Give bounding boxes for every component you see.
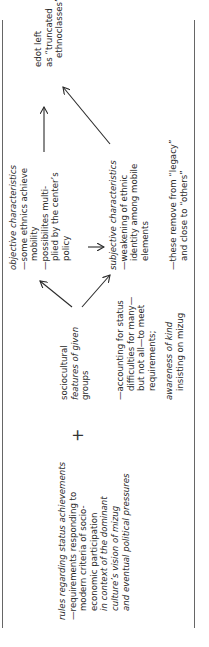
arrow-up-right-icon [63, 87, 110, 144]
rotated-diagram-page: rules regarding status achievements —req… [0, 0, 209, 647]
arrows-layer [0, 0, 209, 647]
arrow-up-right-icon [40, 281, 72, 307]
arrow-down-right-icon [82, 275, 110, 307]
